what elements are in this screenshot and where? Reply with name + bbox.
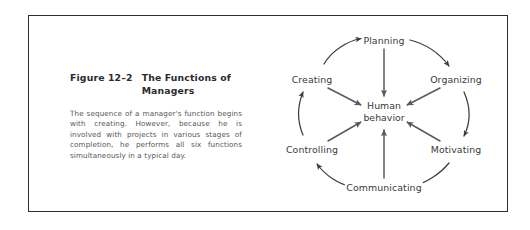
arc-creating-to-planning — [324, 39, 361, 65]
figure-caption-title: Figure 12–2 The Functions of Managers — [70, 72, 250, 97]
node-motivating: Motivating — [429, 144, 483, 155]
node-human-behavior: Human behavior — [361, 100, 406, 123]
figure-title-text: The Functions of Managers — [142, 72, 231, 97]
management-cycle-diagram: Planning Organizing Motivating Communica… — [268, 22, 500, 202]
figure-number: Figure 12–2 — [70, 72, 133, 85]
node-controlling: Controlling — [284, 144, 339, 155]
arrow-creating-to-center — [328, 88, 361, 105]
arrow-controlling-to-center — [328, 122, 361, 141]
arrow-organizing-to-center — [407, 88, 440, 105]
caption-block: Figure 12–2 The Functions of Managers Th… — [70, 72, 250, 161]
arc-planning-to-organizing — [410, 40, 449, 66]
node-organizing: Organizing — [429, 74, 484, 85]
arc-organizing-to-motivating — [464, 92, 469, 136]
arc-controlling-to-creating — [299, 92, 304, 135]
figure-caption-body: The sequence of a manager's function beg… — [70, 109, 242, 161]
node-planning: Planning — [362, 35, 406, 46]
arrow-motivating-to-center — [407, 122, 440, 141]
node-creating: Creating — [290, 74, 334, 85]
node-communicating: Communicating — [345, 182, 423, 193]
figure-root: Figure 12–2 The Functions of Managers Th… — [0, 0, 530, 230]
